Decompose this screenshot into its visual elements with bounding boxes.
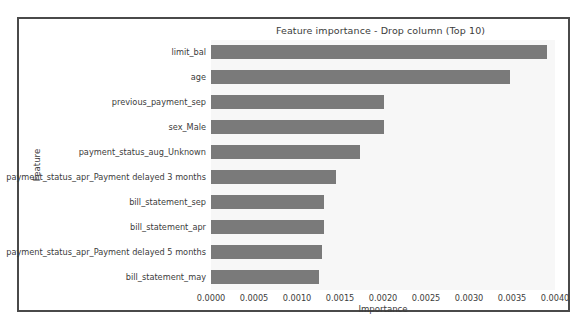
y-tick-label: bill_statement_apr — [130, 215, 211, 240]
y-tick-label: age — [191, 65, 211, 90]
bar — [211, 220, 324, 234]
x-tick-label: 0.0025 — [412, 293, 441, 303]
y-tick-label: payment_status_aug_Unknown — [79, 140, 211, 165]
bar — [211, 45, 547, 59]
bar-row: previous_payment_sep — [211, 90, 555, 115]
y-tick-label: payment_status_apr_Payment delayed 5 mon… — [6, 240, 211, 265]
bar — [211, 270, 319, 284]
y-tick-label: bill_statement_sep — [129, 190, 211, 215]
x-tick-label: 0.0015 — [326, 293, 355, 303]
bar-row: bill_statement_may — [211, 265, 555, 290]
y-tick-label: previous_payment_sep — [112, 90, 211, 115]
bar — [211, 145, 360, 159]
plot-area: limit_balageprevious_payment_sepsex_Male… — [211, 40, 555, 290]
figure-panel: Feature importance - Drop column (Top 10… — [17, 17, 570, 312]
bar-row: sex_Male — [211, 115, 555, 140]
bar — [211, 120, 384, 134]
chart-title: Feature importance - Drop column (Top 10… — [19, 25, 568, 36]
bar — [211, 95, 384, 109]
x-tick-label: 0.0010 — [283, 293, 312, 303]
x-tick-label: 0.0020 — [369, 293, 398, 303]
y-tick-label: limit_bal — [171, 40, 211, 65]
bar-row: bill_statement_sep — [211, 190, 555, 215]
x-axis-label: Importance — [211, 304, 555, 314]
bar-row: payment_status_aug_Unknown — [211, 140, 555, 165]
x-tick-label: 0.0005 — [240, 293, 269, 303]
x-tick-label: 0.0040 — [541, 293, 570, 303]
bar-row: age — [211, 65, 555, 90]
y-tick-label: bill_statement_may — [126, 265, 211, 290]
bar-row: bill_statement_apr — [211, 215, 555, 240]
bar — [211, 70, 510, 84]
bar-row: payment_status_apr_Payment delayed 3 mon… — [211, 165, 555, 190]
y-tick-label: sex_Male — [169, 115, 212, 140]
x-tick-label: 0.0000 — [197, 293, 226, 303]
x-tick-label: 0.0030 — [455, 293, 484, 303]
bar — [211, 195, 324, 209]
bar — [211, 245, 322, 259]
bar-row: limit_bal — [211, 40, 555, 65]
bar — [211, 170, 336, 184]
x-tick-label: 0.0035 — [498, 293, 527, 303]
y-tick-label: payment_status_apr_Payment delayed 3 mon… — [6, 165, 211, 190]
bar-row: payment_status_apr_Payment delayed 5 mon… — [211, 240, 555, 265]
